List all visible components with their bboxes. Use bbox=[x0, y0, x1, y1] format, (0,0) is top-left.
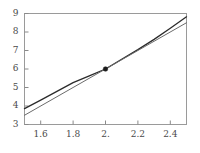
y-tick-label: 4 bbox=[0, 101, 19, 110]
y-tick-label: 7 bbox=[0, 46, 19, 55]
data-points-group bbox=[103, 67, 108, 72]
y-tick-label: 5 bbox=[0, 83, 19, 92]
x-tick-label: 1.8 bbox=[58, 130, 88, 139]
intersection-marker bbox=[103, 67, 108, 72]
y-tick-label: 3 bbox=[0, 120, 19, 129]
y-tick-label: 8 bbox=[0, 27, 19, 36]
x-tick-label: 2.4 bbox=[155, 130, 185, 139]
y-tick-label: 9 bbox=[0, 9, 19, 18]
x-tick-label: 2. bbox=[91, 130, 121, 139]
figure-container: 3456789 1.61.82.2.22.4 bbox=[0, 0, 200, 153]
y-tick-label: 6 bbox=[0, 64, 19, 73]
x-tick-label: 1.6 bbox=[26, 130, 56, 139]
x-tick-label: 2.2 bbox=[123, 130, 153, 139]
